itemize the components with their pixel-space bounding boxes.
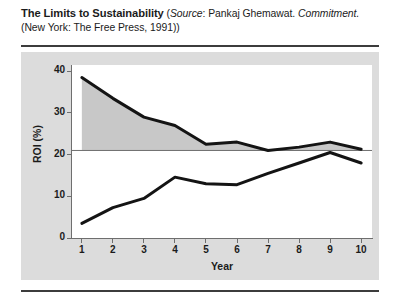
y-axis-line <box>71 65 72 239</box>
y-axis-tick <box>67 196 71 197</box>
y-axis-tick <box>67 238 71 239</box>
y-axis-tick-labels: 010203040 <box>21 52 65 280</box>
y-axis-tick-label: 10 <box>37 189 65 200</box>
x-axis-tick-label: 9 <box>318 244 342 255</box>
y-axis-tick-label: 40 <box>37 64 65 75</box>
x-axis-tick-label: 4 <box>163 244 187 255</box>
x-axis-tick-label: 2 <box>101 244 125 255</box>
x-axis-tick <box>205 239 206 243</box>
x-axis-tick <box>174 239 175 243</box>
x-axis-tick <box>330 239 331 243</box>
x-axis-line <box>71 238 373 239</box>
x-axis-tick-label: 1 <box>70 244 94 255</box>
figure-container: The Limits to Sustainability (Source: Pa… <box>0 0 398 305</box>
x-axis-tick <box>143 239 144 243</box>
x-axis-tick-label: 5 <box>194 244 218 255</box>
y-axis-tick <box>67 71 71 72</box>
x-axis-tick <box>361 239 362 243</box>
x-axis-tick <box>81 239 82 243</box>
figure-caption: The Limits to Sustainability (Source: Pa… <box>21 6 381 35</box>
x-axis-tick-label: 6 <box>225 244 249 255</box>
chart-panel: 010203040 ROI (%) Year 12345678910 <box>21 52 379 280</box>
x-axis-tick <box>299 239 300 243</box>
y-axis-tick-label: 0 <box>37 231 65 242</box>
x-axis-tick-label: 3 <box>132 244 156 255</box>
caption-title: The Limits to Sustainability <box>21 7 164 19</box>
caption-source-author: : Pankaj Ghemawat. <box>203 8 299 19</box>
x-axis-tick-label: 8 <box>287 244 311 255</box>
x-axis-tick-label: 10 <box>349 244 373 255</box>
x-axis-tick <box>112 239 113 243</box>
y-axis-tick <box>67 154 71 155</box>
caption-work-title: Commitment. <box>298 8 359 19</box>
x-axis-tick <box>268 239 269 243</box>
caption-publication: (New York: The Free Press, 1991)) <box>21 22 180 33</box>
caption-source-word: Source <box>170 8 203 19</box>
x-axis-title: Year <box>71 260 373 272</box>
bottom-divider-rule <box>21 290 379 292</box>
y-axis-title: ROI (%) <box>31 104 43 184</box>
x-axis-tick-label: 7 <box>256 244 280 255</box>
y-axis-tick <box>67 112 71 113</box>
title-divider-rule <box>21 45 379 47</box>
x-axis-tick <box>237 239 238 243</box>
